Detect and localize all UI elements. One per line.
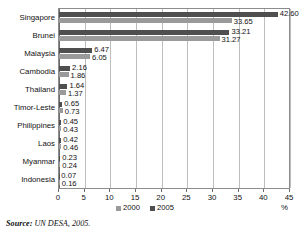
bar-2005 (59, 102, 62, 107)
legend-label-2005: 2005 (157, 203, 174, 212)
x-tick-mark (135, 189, 136, 192)
y-axis-label-brunei: Brunei (32, 31, 55, 40)
x-axis-ticks: 051015202530354045 (58, 189, 290, 201)
bar-value-label-2000: 0.73 (65, 108, 80, 116)
x-tick-mark (58, 189, 59, 192)
bar-row: 2.161.86 (59, 63, 289, 81)
x-tick-mark (109, 189, 110, 192)
y-axis-label-indonesia: Indonesia (21, 175, 55, 184)
legend-item-2000: 2000 (116, 203, 140, 212)
legend-swatch-2000-icon (116, 206, 121, 211)
bar-row: 0.070.16 (59, 171, 289, 189)
source-text: UN DESA, 2005. (32, 219, 90, 228)
y-axis-label-cambodia: Cambodia (19, 67, 55, 76)
bar-2005 (59, 66, 70, 71)
x-tick-label-5: 5 (81, 193, 85, 202)
bar-value-label-2000: 33.65 (234, 18, 253, 26)
bar-2000 (59, 126, 61, 131)
x-tick-label-35: 35 (233, 193, 242, 202)
x-tick-label-10: 10 (105, 193, 114, 202)
x-tick-label-25: 25 (182, 193, 191, 202)
bar-2005 (59, 156, 60, 161)
x-tick-mark (289, 189, 290, 192)
source-note: Source: UN DESA, 2005. (6, 219, 90, 229)
bar-row: 0.420.46 (59, 135, 289, 153)
bar-row: 42.6033.65 (59, 9, 289, 27)
bar-2005 (59, 174, 60, 179)
bar-value-label-2000: 0.43 (63, 126, 78, 134)
chart-figure: SingaporeBruneiMalaysiaCambodiaThailandT… (0, 0, 306, 234)
y-axis-category-labels: SingaporeBruneiMalaysiaCambodiaThailandT… (0, 8, 55, 189)
x-tick-mark (161, 189, 162, 192)
bar-2005 (59, 138, 61, 143)
x-tick-mark (84, 189, 85, 192)
bar-2005 (59, 84, 67, 89)
bar-row: 6.476.05 (59, 45, 289, 63)
bar-2000 (59, 108, 63, 113)
bar-value-label-2000: 31.27 (222, 36, 241, 44)
plot-area: 42.6033.6533.2131.276.476.052.161.861.64… (58, 8, 290, 189)
y-axis-label-thailand: Thailand (25, 85, 55, 94)
y-axis-label-philippines: Philippines (17, 121, 55, 130)
bar-2005 (59, 48, 92, 53)
x-tick-mark (186, 189, 187, 192)
bar-2000 (59, 162, 60, 167)
x-tick-label-15: 15 (131, 193, 140, 202)
x-tick-label-30: 30 (208, 193, 217, 202)
x-tick-mark (263, 189, 264, 192)
y-axis-label-laos: Laos (38, 139, 55, 148)
bar-row: 0.230.24 (59, 153, 289, 171)
bar-value-label-2000: 1.37 (68, 90, 83, 98)
bar-row: 33.2131.27 (59, 27, 289, 45)
bar-2005 (59, 30, 229, 35)
x-axis-unit-label: % (281, 203, 288, 212)
bar-value-label-2000: 1.86 (71, 72, 86, 80)
x-tick-label-0: 0 (56, 193, 60, 202)
legend-swatch-2005-icon (150, 206, 155, 211)
x-tick-label-20: 20 (156, 193, 165, 202)
bar-2000 (59, 18, 232, 23)
bar-2005 (59, 120, 61, 125)
bar-2000 (59, 54, 90, 59)
y-axis-label-timor-leste: Timor-Leste (14, 103, 55, 112)
bar-value-label-2000: 6.05 (92, 54, 107, 62)
bar-row: 0.450.43 (59, 117, 289, 135)
x-tick-label-40: 40 (259, 193, 268, 202)
bar-value-label-2000: 0.16 (62, 180, 77, 188)
legend-label-2000: 2000 (123, 203, 140, 212)
bar-2000 (59, 180, 60, 185)
source-label: Source: (6, 219, 32, 228)
y-axis-label-myanmar: Myanmar (23, 157, 56, 166)
bar-value-label-2000: 0.46 (63, 144, 78, 152)
x-tick-mark (238, 189, 239, 192)
bar-row: 0.650.73 (59, 99, 289, 117)
bar-2000 (59, 36, 220, 41)
gridline (290, 9, 291, 188)
legend-item-2005: 2005 (150, 203, 174, 212)
bar-value-label-2000: 0.24 (62, 162, 77, 170)
bar-2000 (59, 72, 69, 77)
y-axis-label-malaysia: Malaysia (24, 49, 55, 58)
x-tick-label-45: 45 (285, 193, 294, 202)
bar-2000 (59, 90, 66, 95)
bar-rows: 42.6033.6533.2131.276.476.052.161.861.64… (59, 9, 289, 188)
y-axis-label-singapore: Singapore (19, 13, 55, 22)
x-tick-mark (212, 189, 213, 192)
bar-value-label-2005: 42.60 (280, 10, 299, 18)
chart-legend: 2000 2005 (0, 203, 290, 212)
bar-2000 (59, 144, 61, 149)
bar-row: 1.641.37 (59, 81, 289, 99)
